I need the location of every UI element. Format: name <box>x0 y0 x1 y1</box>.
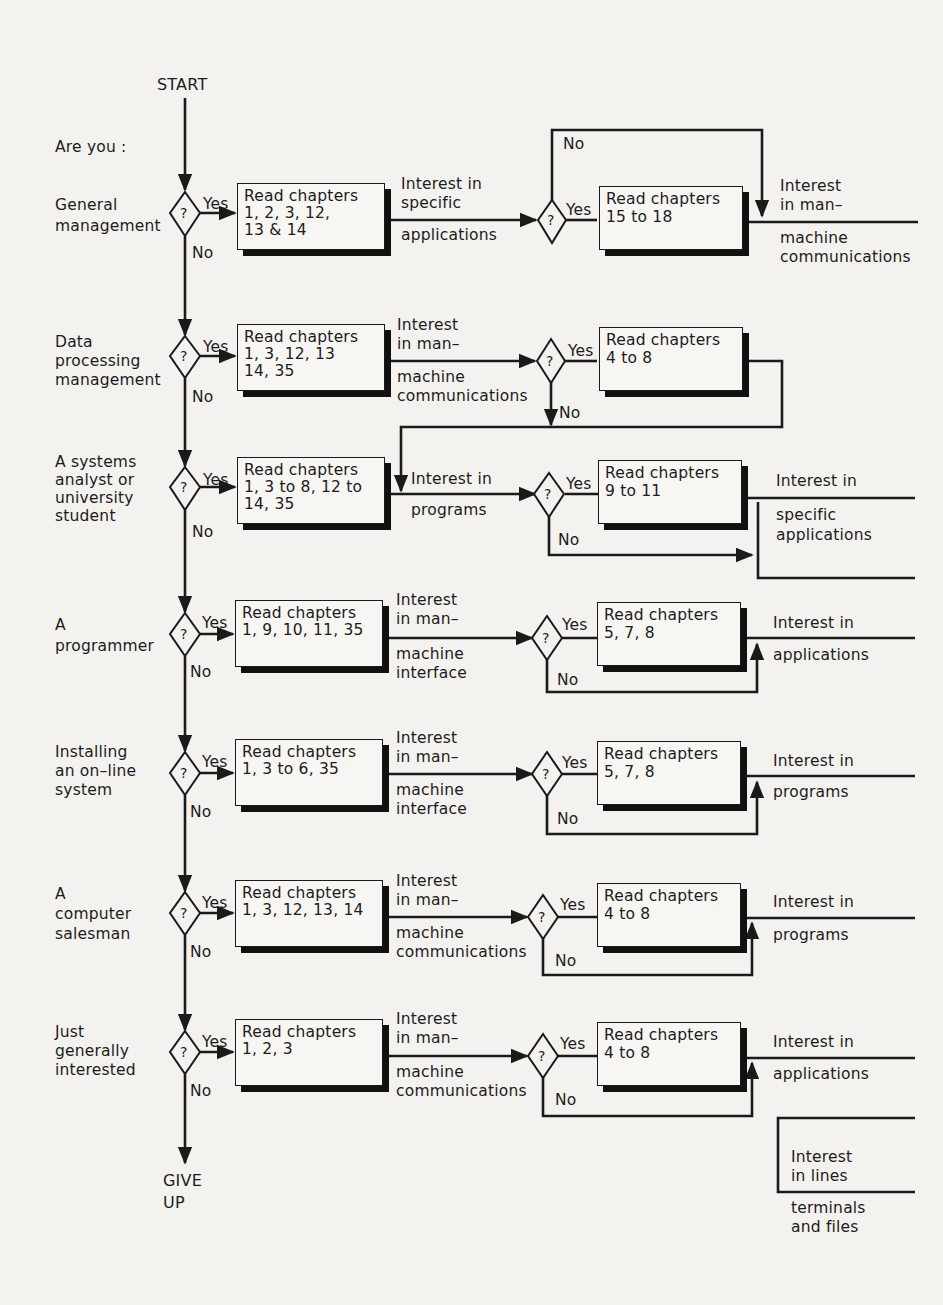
followup-chapters-box: Read chapters 4 to 8 <box>597 883 741 947</box>
interest-question-label: Interest in man– <box>397 316 460 354</box>
role-label: A programmer <box>55 615 154 657</box>
outcome-label: Interest in <box>773 1033 854 1051</box>
followup-chapters-box: Read chapters 4 to 8 <box>597 1022 741 1086</box>
interest-question-label: Interest in <box>411 470 492 488</box>
interest-question-label: Interest in man– <box>396 1010 459 1048</box>
followup-chapters-box: Read chapters 5, 7, 8 <box>597 741 741 805</box>
followup-chapters-box: Read chapters 5, 7, 8 <box>597 602 741 666</box>
no-label: No <box>192 388 213 406</box>
question-mark-icon: ? <box>180 904 188 922</box>
yes-label: Yes <box>202 894 228 912</box>
question-mark-icon: ? <box>180 347 188 365</box>
yes-label: Yes <box>202 753 228 771</box>
interest-question-label: machine communications <box>397 368 528 406</box>
role-label: A computer salesman <box>55 884 131 944</box>
question-mark-icon: ? <box>542 629 550 647</box>
yes-label: Yes <box>568 342 594 360</box>
yes-label: Yes <box>562 616 588 634</box>
read-chapters-box: Read chapters 1, 9, 10, 11, 35 <box>235 600 383 667</box>
outcome-label: Interest in <box>773 893 854 911</box>
question-mark-icon: ? <box>180 764 188 782</box>
no-label: No <box>563 135 584 153</box>
interest-question-label: programs <box>411 501 487 519</box>
no-label: No <box>190 1082 211 1100</box>
outcome-label: applications <box>773 1065 869 1083</box>
outcome-label: specific applications <box>776 505 872 545</box>
question-mark-icon: ? <box>180 625 188 643</box>
no-label: No <box>555 1091 576 1109</box>
no-label: No <box>559 404 580 422</box>
question-mark-icon: ? <box>180 204 188 222</box>
yes-label: Yes <box>560 1035 586 1053</box>
question-mark-icon: ? <box>180 1043 188 1061</box>
interest-question-label: Interest in specific <box>401 175 482 213</box>
role-label: General management <box>55 195 161 237</box>
followup-chapters-box: Read chapters 9 to 11 <box>598 460 742 524</box>
yes-label: Yes <box>560 896 586 914</box>
read-chapters-box: Read chapters 1, 3 to 8, 12 to 14, 35 <box>237 457 385 524</box>
yes-label: Yes <box>203 471 229 489</box>
read-chapters-box: Read chapters 1, 3 to 6, 35 <box>235 739 383 806</box>
read-chapters-box: Read chapters 1, 3, 12, 13, 14 <box>235 880 383 947</box>
outcome-label: applications <box>773 646 869 664</box>
question-mark-icon: ? <box>546 352 554 370</box>
question-mark-icon: ? <box>538 908 546 926</box>
followup-chapters-box: Read chapters 15 to 18 <box>599 186 743 250</box>
question-mark-icon: ? <box>180 478 188 496</box>
role-label: Just generally interested <box>55 1023 136 1080</box>
no-label: No <box>558 531 579 549</box>
outcome-label: Interest in <box>773 614 854 632</box>
no-label: No <box>557 810 578 828</box>
outcome-label: Interest in man– <box>780 177 843 215</box>
outcome-label: Interest in lines <box>791 1148 852 1186</box>
interest-question-label: applications <box>401 226 497 244</box>
outcome-label: Interest in <box>776 472 857 490</box>
no-label: No <box>192 244 213 262</box>
question-mark-icon: ? <box>544 485 552 503</box>
read-chapters-box: Read chapters 1, 3, 12, 13 14, 35 <box>237 324 385 391</box>
interest-question-label: Interest in man– <box>396 729 459 767</box>
yes-label: Yes <box>566 475 592 493</box>
interest-question-label: Interest in man– <box>396 872 459 910</box>
outcome-label: terminals and files <box>791 1199 866 1237</box>
interest-question-label: machine communications <box>396 1063 527 1101</box>
read-chapters-box: Read chapters 1, 2, 3 <box>235 1019 383 1086</box>
outcome-label: programs <box>773 783 849 801</box>
interest-question-label: machine interface <box>396 781 467 819</box>
outcome-label: machine communications <box>780 229 911 267</box>
yes-label: Yes <box>202 1033 228 1051</box>
no-label: No <box>190 663 211 681</box>
outcome-label: Interest in <box>773 752 854 770</box>
no-label: No <box>555 952 576 970</box>
yes-label: Yes <box>202 614 228 632</box>
no-label: No <box>557 671 578 689</box>
role-label: Data processing management <box>55 333 161 390</box>
role-label: A systems analyst or university student <box>55 453 136 525</box>
start-label: START <box>157 76 207 94</box>
question-mark-icon: ? <box>547 211 555 229</box>
yes-label: Yes <box>566 201 592 219</box>
yes-label: Yes <box>203 195 229 213</box>
question-mark-icon: ? <box>542 765 550 783</box>
followup-chapters-box: Read chapters 4 to 8 <box>599 327 743 391</box>
no-label: No <box>190 803 211 821</box>
outcome-label: programs <box>773 926 849 944</box>
no-label: No <box>190 943 211 961</box>
interest-question-label: Interest in man– <box>396 591 459 629</box>
interest-question-label: machine interface <box>396 645 467 683</box>
question-mark-icon: ? <box>538 1047 546 1065</box>
prompt-label: Are you : <box>55 138 127 156</box>
no-label: No <box>192 523 213 541</box>
read-chapters-box: Read chapters 1, 2, 3, 12, 13 & 14 <box>237 183 385 250</box>
give-up-label: GIVE UP <box>163 1170 202 1214</box>
yes-label: Yes <box>203 338 229 356</box>
interest-question-label: machine communications <box>396 924 527 962</box>
yes-label: Yes <box>562 754 588 772</box>
role-label: Installing an on–line system <box>55 743 136 800</box>
